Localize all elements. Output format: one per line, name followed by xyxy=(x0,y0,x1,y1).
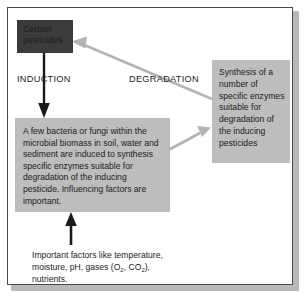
caption-subscript-o2: 2 xyxy=(120,267,123,273)
degradation-arrow xyxy=(72,37,213,100)
induction-arrow xyxy=(38,53,50,118)
factors-caption: Important factors like temperature, mois… xyxy=(32,250,242,286)
caption-line-3: nutrients. xyxy=(32,274,67,284)
caption-line-1: Important factors like temperature, xyxy=(32,250,163,260)
pesticides-box: Certain pesticides xyxy=(17,20,73,53)
enzymes-box-label: Synthesis of a number of specific enzyme… xyxy=(219,67,284,148)
enzymes-box: Synthesis of a number of specific enzyme… xyxy=(212,60,290,163)
microbes-box: A few bacteria or fungi within the micro… xyxy=(15,118,170,212)
degradation-label: DEGRADATION xyxy=(129,74,199,84)
caption-subscript-co2: 2 xyxy=(141,267,144,273)
pesticides-box-label: Certain pesticides xyxy=(23,24,63,45)
induction-label: INDUCTION xyxy=(17,74,71,84)
microbes-box-label: A few bacteria or fungi within the micro… xyxy=(23,126,159,206)
caption-line-2-b: , CO xyxy=(124,262,142,272)
factors-arrow xyxy=(65,212,77,245)
diagram-figure: Certain pesticides A few bacteria or fun… xyxy=(0,0,305,297)
caption-line-2-c: ), xyxy=(145,262,150,272)
caption-line-2-a: moisture, pH, gases (O xyxy=(32,262,120,272)
